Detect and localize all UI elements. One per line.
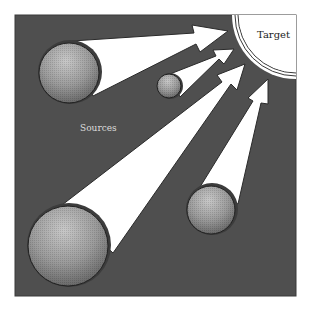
source-node-1	[38, 40, 102, 104]
source-node-2	[157, 73, 183, 99]
sources-label: Sources	[80, 123, 117, 133]
source-node-4	[186, 183, 238, 235]
source-node-3	[27, 203, 111, 287]
target-label: Target	[257, 29, 290, 40]
sources-target-diagram: Target Sources	[0, 0, 316, 311]
